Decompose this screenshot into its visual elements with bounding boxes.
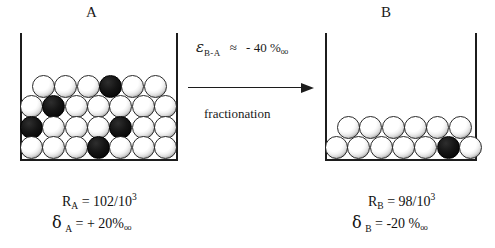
light-isotope-ball — [404, 116, 427, 139]
light-isotope-ball — [20, 95, 43, 118]
arrow-shaft — [188, 87, 302, 88]
vessel-a-ratio-label: R — [62, 194, 71, 209]
vessel-a-title: A — [86, 4, 97, 21]
vessel-a-delta-symbol: δ — [52, 213, 62, 232]
ball-row — [325, 136, 477, 157]
ball-row — [20, 136, 178, 157]
ball-row — [20, 116, 178, 137]
arrow-head — [301, 83, 314, 93]
epsilon-equation: εB-A ≈ - 40 %oo — [196, 38, 288, 58]
light-isotope-ball — [325, 136, 348, 159]
light-isotope-ball — [77, 75, 100, 98]
vessel-b-beaker — [325, 33, 477, 161]
light-isotope-ball — [414, 136, 437, 159]
vessel-b-values: RB = 98/103 δ B = -20 %oo — [352, 184, 435, 236]
vessel-a-delta-line: δ A = + 20%oo — [52, 210, 137, 236]
epsilon-permil-symbol: %oo — [270, 40, 288, 56]
vessel-a-beaker — [20, 33, 178, 161]
vessel-b-ratio-exponent: 3 — [430, 192, 435, 202]
light-isotope-ball — [87, 95, 110, 118]
fractionation-arrow-icon — [188, 82, 314, 94]
vessel-a-ball-stack — [20, 75, 178, 160]
ball-row — [20, 75, 178, 96]
dark-isotope-ball — [87, 136, 110, 159]
vessel-a-delta-subscript: A — [65, 224, 72, 234]
vessel-a-ratio-exponent: 3 — [132, 192, 137, 202]
light-isotope-ball — [449, 116, 472, 139]
epsilon-symbol: ε — [196, 38, 204, 56]
light-isotope-ball — [109, 136, 132, 159]
vessel-b-delta-permil: %oo — [409, 211, 428, 241]
light-isotope-ball — [392, 136, 415, 159]
vessel-b-delta-line: δ B = -20 %oo — [352, 210, 435, 236]
vessel-a-ratio-line: RA = 102/103 — [52, 184, 137, 210]
vessel-b-delta-symbol: δ — [352, 213, 362, 232]
vessel-a-delta-value: = + 20 — [76, 216, 113, 231]
vessel-b-ball-stack — [325, 116, 477, 160]
light-isotope-ball — [426, 116, 449, 139]
light-isotope-ball — [65, 136, 88, 159]
approx-sign: ≈ — [230, 40, 237, 55]
light-isotope-ball — [144, 75, 167, 98]
fractionation-label: fractionation — [204, 106, 270, 122]
vessel-a-ratio-equation: = 102/10 — [78, 194, 132, 209]
vessel-b-ratio-label: R — [368, 194, 377, 209]
ball-row — [20, 95, 178, 116]
light-isotope-ball — [20, 136, 43, 159]
vessel-b-ratio-equation: = 98/10 — [384, 194, 431, 209]
light-isotope-ball — [370, 136, 393, 159]
epsilon-subscript: B-A — [204, 48, 220, 58]
light-isotope-ball — [382, 116, 405, 139]
vessel-a-values: RA = 102/103 δ A = + 20%oo — [52, 184, 137, 236]
ball-row — [325, 116, 477, 137]
light-isotope-ball — [132, 95, 155, 118]
vessel-b-delta-subscript: B — [365, 224, 371, 234]
vessel-b-delta-value: = -20 — [375, 216, 409, 231]
light-isotope-ball — [459, 136, 482, 159]
vessel-a-delta-permil: %oo — [112, 211, 131, 241]
light-isotope-ball — [42, 136, 65, 159]
light-isotope-ball — [154, 95, 177, 118]
epsilon-value: - 40 — [246, 40, 267, 55]
dark-isotope-ball — [99, 75, 122, 98]
light-isotope-ball — [65, 95, 88, 118]
vessel-b-title: B — [381, 4, 392, 21]
light-isotope-ball — [54, 75, 77, 98]
light-isotope-ball — [347, 136, 370, 159]
light-isotope-ball — [121, 75, 144, 98]
vessel-b-ratio-line: RB = 98/103 — [352, 184, 435, 210]
dark-isotope-ball — [437, 136, 460, 159]
light-isotope-ball — [359, 116, 382, 139]
light-isotope-ball — [154, 136, 177, 159]
light-isotope-ball — [132, 136, 155, 159]
